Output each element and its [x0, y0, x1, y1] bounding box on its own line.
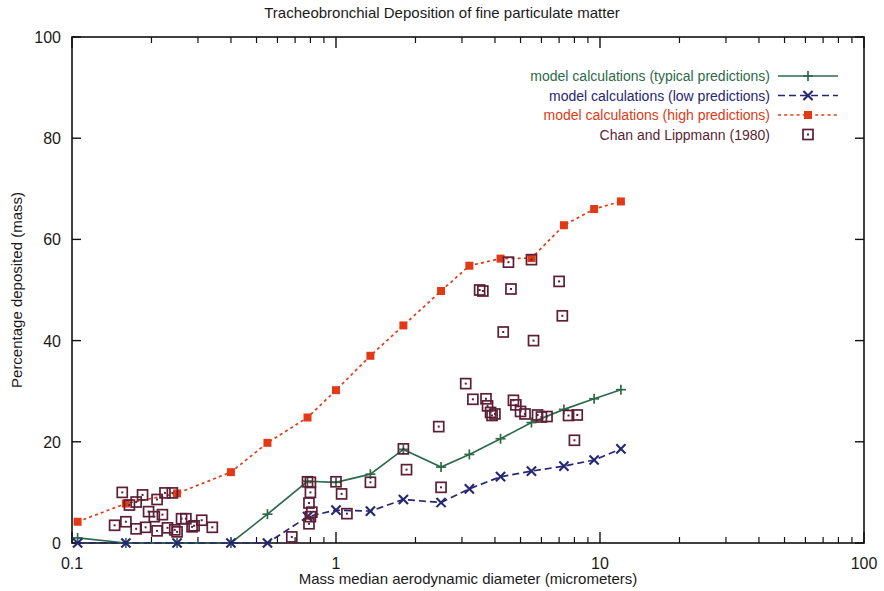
data-point-marker [227, 468, 235, 476]
y-tick-label: 0 [52, 535, 61, 552]
data-point-marker [804, 111, 812, 119]
data-point-marker [590, 205, 598, 213]
legend-label-2: model calculations (high predictions) [544, 107, 770, 123]
y-tick-label: 100 [34, 29, 61, 46]
y-tick-label: 80 [43, 130, 61, 147]
deposition-scatter-chart: Tracheobronchial Deposition of fine part… [0, 0, 884, 591]
x-tick-label: 100 [851, 555, 878, 572]
data-point-marker [437, 287, 445, 295]
chart-figure: Tracheobronchial Deposition of fine part… [0, 0, 884, 591]
y-tick-label: 40 [43, 333, 61, 350]
data-point-marker [74, 518, 82, 526]
y-axis-label: Percentage deposited (mass) [8, 192, 25, 388]
data-point-marker [366, 352, 374, 360]
x-tick-label: 0.1 [61, 555, 83, 572]
data-point-marker [332, 386, 340, 394]
data-point-marker [263, 439, 271, 447]
x-axis-label: Mass median aerodynamic diameter (microm… [299, 570, 637, 587]
legend-label-0: model calculations (typical predictions) [530, 68, 770, 84]
legend-label-1: model calculations (low predictions) [549, 88, 770, 104]
data-point-marker [617, 197, 625, 205]
chart-title: Tracheobronchial Deposition of fine part… [264, 4, 619, 21]
legend-label-3: Chan and Lippmann (1980) [600, 127, 770, 143]
data-point-marker [304, 414, 312, 422]
y-tick-label: 20 [43, 434, 61, 451]
data-point-marker [560, 221, 568, 229]
y-tick-label: 60 [43, 231, 61, 248]
data-point-marker [465, 262, 473, 270]
data-point-marker [399, 321, 407, 329]
